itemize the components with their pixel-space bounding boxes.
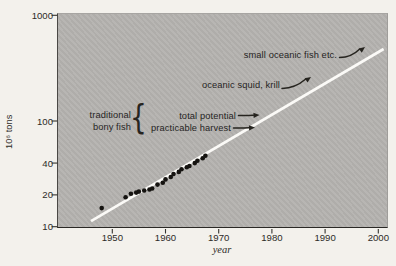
y-tick-label: 100 bbox=[17, 116, 53, 127]
y-axis-title: 10⁶ tons bbox=[4, 95, 14, 149]
x-tick-label: 1990 bbox=[310, 232, 340, 243]
data-point bbox=[171, 172, 176, 177]
x-axis-title: year bbox=[198, 244, 246, 255]
arrow-oceanic-squid-krill bbox=[282, 79, 305, 88]
data-point bbox=[155, 182, 160, 187]
chart-canvas bbox=[0, 0, 396, 266]
data-point bbox=[137, 189, 142, 194]
x-tick-label: 2000 bbox=[363, 232, 393, 243]
x-tick-label: 1960 bbox=[151, 232, 181, 243]
data-point bbox=[123, 195, 128, 200]
y-tick-label: 40 bbox=[17, 158, 53, 169]
arrow-small-oceanic-fish bbox=[340, 49, 360, 57]
y-tick-label: 1000 bbox=[17, 10, 53, 21]
annotation-total-potential: total potential bbox=[179, 111, 236, 121]
annotation-traditional-line1: traditional bbox=[90, 109, 131, 121]
x-tick-label: 1970 bbox=[204, 232, 234, 243]
data-point bbox=[179, 167, 184, 172]
arrow-total-potential-head bbox=[253, 113, 259, 118]
x-tick-label: 1950 bbox=[97, 232, 127, 243]
data-point bbox=[187, 164, 192, 169]
x-tick-label: 1980 bbox=[257, 232, 287, 243]
y-tick-label: 20 bbox=[17, 189, 53, 200]
data-point bbox=[150, 186, 155, 191]
data-point bbox=[99, 206, 104, 211]
annotation-oceanic-squid-krill: oceanic squid, krill bbox=[202, 80, 280, 90]
figure: 10⁶ tons year small oceanic fish etc. oc… bbox=[0, 0, 396, 266]
data-point bbox=[203, 153, 208, 158]
annotation-traditional-line2: bony fish bbox=[90, 121, 131, 133]
data-point bbox=[195, 159, 200, 164]
annotation-practicable-harvest: practicable harvest bbox=[151, 123, 231, 133]
y-tick-label: 10 bbox=[17, 221, 53, 232]
data-point bbox=[129, 191, 134, 196]
brace-glyph: { bbox=[130, 101, 147, 134]
data-point bbox=[142, 188, 147, 193]
annotation-traditional-bony-fish: traditional bony fish bbox=[90, 109, 131, 133]
data-point bbox=[163, 177, 168, 182]
annotation-small-oceanic-fish: small oceanic fish etc. bbox=[244, 50, 337, 60]
